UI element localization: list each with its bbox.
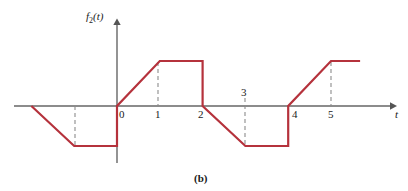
tick-label-2: 2 [198, 109, 204, 120]
tick-label-3: 3 [241, 87, 247, 98]
y-axis-label-arg: (t) [93, 10, 103, 22]
y-axis-label: f2(t) [86, 11, 103, 25]
figure-caption: (b) [194, 173, 207, 184]
f2-axis-arrowhead [113, 19, 120, 26]
figure-panel-b: f2(t) t 0 1 2 3 4 5 (b) [0, 0, 408, 191]
tick-label-4: 4 [292, 109, 298, 120]
tick-label-5: 5 [328, 109, 334, 120]
tick-label-0: 0 [119, 109, 125, 120]
waveform-trace [31, 61, 360, 146]
waveform-plot [0, 0, 408, 191]
x-axis-label: t [395, 109, 398, 120]
tick-label-1: 1 [155, 109, 161, 120]
